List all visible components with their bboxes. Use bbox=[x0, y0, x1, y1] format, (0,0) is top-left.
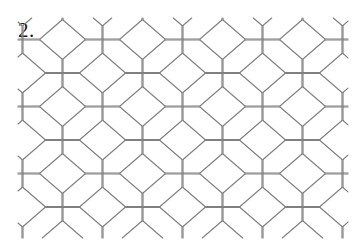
hexagon-edge bbox=[173, 18, 182, 26]
hexagon-edge bbox=[120, 87, 142, 106]
hexagon-edge bbox=[23, 74, 45, 93]
hexagon-edge bbox=[343, 155, 348, 159]
hexagon-edge bbox=[40, 87, 62, 106]
hexagon-edge bbox=[103, 121, 125, 140]
hexagon-edge bbox=[320, 188, 342, 207]
hexagon-edge bbox=[200, 154, 222, 173]
hexagon-edge bbox=[40, 40, 62, 59]
hexagon-edge bbox=[320, 208, 342, 227]
hexagon-edge bbox=[240, 188, 262, 207]
hexagon-edge bbox=[183, 74, 205, 93]
hexagon-edge bbox=[240, 54, 262, 73]
hexagon-edge bbox=[223, 20, 245, 39]
hexagon-edge bbox=[202, 221, 222, 238]
hexagon-edge bbox=[253, 18, 262, 26]
hexagon-edge bbox=[263, 121, 285, 140]
hexagon-edge bbox=[42, 221, 62, 238]
hexagon-edge bbox=[18, 121, 22, 124]
hexagon-edge bbox=[18, 89, 22, 92]
hexagon-edge bbox=[120, 174, 142, 193]
hexagon-edge bbox=[320, 121, 342, 140]
hexagon-edge bbox=[120, 154, 142, 173]
hexagon-edge bbox=[303, 221, 323, 238]
hexagon-edge bbox=[303, 40, 325, 59]
hexagon-edge bbox=[183, 141, 205, 160]
figure-container: 2. bbox=[0, 0, 362, 250]
hexagon-edge bbox=[80, 188, 102, 207]
hexagon-edge bbox=[223, 87, 245, 106]
hexagon-edge bbox=[40, 154, 62, 173]
hexagon-edge bbox=[143, 40, 165, 59]
hexagon-edge bbox=[23, 18, 32, 26]
hexagon-edge bbox=[103, 18, 112, 26]
hexagon-edge bbox=[80, 54, 102, 73]
hexagon-edge bbox=[103, 54, 125, 73]
hexagon-edge bbox=[280, 20, 302, 39]
hexagon-edge bbox=[63, 87, 85, 106]
hexagon-edge bbox=[120, 107, 142, 126]
hexagon-edge bbox=[18, 54, 22, 57]
hexagon-edge bbox=[183, 54, 205, 73]
hexagon-edge bbox=[223, 107, 245, 126]
hexagon-edge bbox=[23, 208, 45, 227]
hexagon-edge bbox=[63, 20, 85, 39]
hexagon-edge bbox=[23, 141, 45, 160]
hexagon-edge bbox=[103, 208, 125, 227]
hexagon-edge bbox=[200, 20, 222, 39]
hexagon-edge bbox=[303, 107, 325, 126]
hexagon-edge bbox=[263, 208, 285, 227]
hexagon-edge bbox=[63, 40, 85, 59]
hexagon-edge bbox=[18, 156, 22, 159]
hexagonal-tiling-figure bbox=[0, 0, 362, 250]
hexagon-edge bbox=[80, 121, 102, 140]
hexagon-edge bbox=[223, 154, 245, 173]
hexagon-edge bbox=[23, 54, 45, 73]
hexagon-edge bbox=[80, 208, 102, 227]
hexagon-edge bbox=[40, 107, 62, 126]
hexagon-edge bbox=[18, 22, 22, 25]
hexagon-edge bbox=[320, 141, 342, 160]
hexagon-edge bbox=[240, 141, 262, 160]
hexagon-edge bbox=[240, 121, 262, 140]
hexagon-edge bbox=[80, 141, 102, 160]
hexagon-edge bbox=[160, 141, 182, 160]
hexagon-edge bbox=[303, 20, 325, 39]
hexagon-edge bbox=[303, 174, 325, 193]
hexagon-edge bbox=[200, 87, 222, 106]
hexagon-edge bbox=[160, 208, 182, 227]
hexagon-edge bbox=[143, 174, 165, 193]
hexagon-edge bbox=[280, 154, 302, 173]
hexagon-edge bbox=[343, 88, 348, 92]
hexagon-edge bbox=[200, 40, 222, 59]
hexagon-edge bbox=[303, 87, 325, 106]
hexagon-edge bbox=[343, 188, 348, 192]
hexagon-edge bbox=[160, 54, 182, 73]
hexagon-edge bbox=[333, 18, 342, 26]
hexagon-edge bbox=[282, 221, 302, 238]
hexagon-edge bbox=[280, 107, 302, 126]
hexagon-edge bbox=[40, 174, 62, 193]
hexagon-edge bbox=[223, 40, 245, 59]
hexagon-edge bbox=[200, 174, 222, 193]
hexagon-edge bbox=[223, 221, 243, 238]
hexagon-edge bbox=[280, 87, 302, 106]
hexagon-edge bbox=[183, 121, 205, 140]
hexagon-edge bbox=[80, 74, 102, 93]
hexagon-edge bbox=[103, 188, 125, 207]
hexagon-edge bbox=[343, 222, 348, 226]
hexagon-edge bbox=[63, 107, 85, 126]
hexagon-edge bbox=[263, 18, 272, 26]
hexagon-edge bbox=[280, 40, 302, 59]
hexagon-edge bbox=[223, 174, 245, 193]
hexagon-edge bbox=[343, 54, 348, 58]
hexagon-edge bbox=[143, 154, 165, 173]
hexagon-edge bbox=[93, 18, 102, 26]
hexagon-edge bbox=[183, 188, 205, 207]
hexagon-edge bbox=[143, 87, 165, 106]
hexagon-edge bbox=[343, 121, 348, 125]
hexagon-edge bbox=[240, 74, 262, 93]
hexagon-edge bbox=[120, 40, 142, 59]
hexagon-edge bbox=[160, 188, 182, 207]
hexagon-edge bbox=[320, 54, 342, 73]
hexagon-edge bbox=[183, 208, 205, 227]
